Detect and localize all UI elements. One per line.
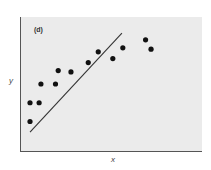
fit-line	[30, 33, 122, 132]
data-point	[96, 49, 101, 54]
data-points	[27, 37, 153, 124]
data-point	[148, 47, 153, 52]
scatter-plot	[0, 0, 211, 170]
data-point	[56, 68, 61, 73]
data-point	[110, 56, 115, 61]
data-point	[86, 60, 91, 65]
data-point	[53, 81, 58, 86]
data-point	[27, 119, 32, 124]
data-point	[37, 100, 42, 105]
data-point	[27, 100, 32, 105]
regression-line	[30, 33, 122, 132]
data-point	[68, 69, 73, 74]
data-point	[38, 81, 43, 86]
data-point	[143, 37, 148, 42]
data-point	[120, 45, 125, 50]
